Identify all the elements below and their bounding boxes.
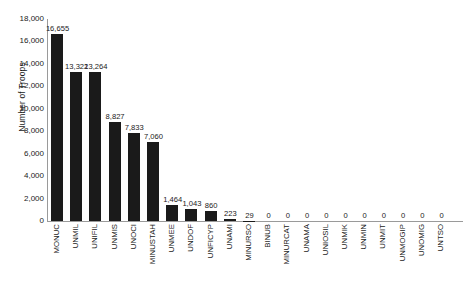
x-axis-label-slot: MONUC xyxy=(47,222,66,285)
bar-slot: 0 xyxy=(317,19,336,221)
bar-slot: 0 xyxy=(413,19,432,221)
bar-value-label: 0 xyxy=(343,212,347,220)
y-axis-tick: 12,000 xyxy=(8,82,44,90)
bar-value-label: 0 xyxy=(420,212,424,220)
x-axis-category-label: BINUB xyxy=(263,224,272,248)
bar-slot: 0 xyxy=(298,19,317,221)
y-axis-tick: 8,000 xyxy=(8,127,44,135)
bar-value-label: 8,827 xyxy=(106,113,125,121)
x-axis-label-slot: MINURCAT xyxy=(277,222,296,285)
x-axis-category-label: UNMOGIP xyxy=(398,224,407,261)
bar xyxy=(205,211,217,221)
bar-slot: 1,043 xyxy=(182,19,201,221)
x-axis-category-label: UNAMA xyxy=(302,224,311,252)
bar-value-label: 29 xyxy=(245,212,253,220)
x-axis-category-labels: MONUCUNMILUNIFILUNMISUNOCIMINUSTAHUNMEEU… xyxy=(47,222,462,285)
bar-value-label: 223 xyxy=(224,210,237,218)
bar xyxy=(109,122,121,221)
bar xyxy=(166,205,178,221)
bar-slot: 223 xyxy=(221,19,240,221)
x-axis-label-slot: UNMIL xyxy=(66,222,85,285)
x-axis-category-label: UNIFIL xyxy=(90,224,99,249)
x-axis-label-slot: UNIFIL xyxy=(85,222,104,285)
bar-slot: 8,827 xyxy=(106,19,125,221)
x-axis-label-slot: BINUB xyxy=(258,222,277,285)
bar-slot: 0 xyxy=(394,19,413,221)
bar-slot: 0 xyxy=(355,19,374,221)
x-axis-label-slot: MINUSTAH xyxy=(143,222,162,285)
bar-slot: 0 xyxy=(336,19,355,221)
x-axis-category-label: MINURSO xyxy=(244,224,253,261)
bar-slot: 0 xyxy=(259,19,278,221)
x-axis-label-slot: UNMIN xyxy=(354,222,373,285)
y-axis-tick: 16,000 xyxy=(8,37,44,45)
x-axis-label-slot: UNOMIG xyxy=(412,222,431,285)
x-axis-category-label: UNMIT xyxy=(378,224,387,249)
bar-slot: 7,833 xyxy=(125,19,144,221)
x-axis-label-slot: UNMEE xyxy=(162,222,181,285)
y-axis-tick-labels: 18,00016,00014,00012,00010,0008,0006,000… xyxy=(8,0,44,285)
bar xyxy=(89,72,101,221)
x-axis-category-label: MINUSTAH xyxy=(148,224,157,264)
bar-value-label: 0 xyxy=(401,212,405,220)
y-axis-tick: 18,000 xyxy=(8,15,44,23)
bar-slot: 860 xyxy=(202,19,221,221)
x-axis-category-label: UNDOF xyxy=(186,224,195,252)
bar-value-label: 0 xyxy=(324,212,328,220)
x-axis-label-slot: UNOCI xyxy=(124,222,143,285)
bar-slot: 13,322 xyxy=(67,19,86,221)
x-axis-category-label: UNAMI xyxy=(225,224,234,249)
bar-value-label: 7,833 xyxy=(125,124,144,132)
x-axis-category-label: UNIOSIL xyxy=(321,224,330,255)
x-axis-category-label: UNMIK xyxy=(340,224,349,249)
x-axis-category-label: UNMIL xyxy=(71,224,80,248)
x-axis-label-slot: UNFICYP xyxy=(201,222,220,285)
bar-slot: 16,655 xyxy=(48,19,67,221)
x-axis-label-slot: UNMOGIP xyxy=(393,222,412,285)
bar xyxy=(128,133,140,221)
x-axis-category-label: UNOMIG xyxy=(417,224,426,256)
x-axis-label-slot: UNMIT xyxy=(373,222,392,285)
bar-slot: 0 xyxy=(374,19,393,221)
x-axis-label-slot: MINURSO xyxy=(239,222,258,285)
x-axis-category-label: UNMIN xyxy=(359,224,368,250)
bar-slot: 0 xyxy=(278,19,297,221)
bar-slot: 13,264 xyxy=(86,19,105,221)
x-axis-category-label: UNMEE xyxy=(167,224,176,252)
bar-value-label: 0 xyxy=(382,212,386,220)
x-axis-label-slot: UNDOF xyxy=(181,222,200,285)
bar-value-label: 13,264 xyxy=(84,63,107,71)
bar-slot: 29 xyxy=(240,19,259,221)
bar xyxy=(51,34,63,221)
bar-slot: 7,060 xyxy=(144,19,163,221)
y-axis-tick: 0 xyxy=(8,217,44,225)
bar-value-label: 0 xyxy=(286,212,290,220)
x-axis-category-label: UNFICYP xyxy=(206,224,215,258)
bar xyxy=(70,72,82,222)
bar-value-label: 860 xyxy=(205,202,218,210)
x-axis-label-slot: UNAMA xyxy=(297,222,316,285)
plot-area: 16,65513,32213,2648,8277,8337,0601,4641,… xyxy=(47,19,463,222)
bar xyxy=(224,219,236,222)
bar-value-label: 0 xyxy=(439,212,443,220)
x-axis-label-slot: UNIOSIL xyxy=(316,222,335,285)
x-axis-category-label: MINURCAT xyxy=(282,224,291,265)
bar-value-label: 0 xyxy=(267,212,271,220)
y-axis-tick: 2,000 xyxy=(8,195,44,203)
bar-value-label: 0 xyxy=(305,212,309,220)
bar-value-label: 7,060 xyxy=(144,133,163,141)
bar-value-label: 0 xyxy=(363,212,367,220)
bar xyxy=(147,142,159,221)
x-axis-category-label: UNTSO xyxy=(436,224,445,251)
bar xyxy=(185,209,197,221)
y-axis-tick: 6,000 xyxy=(8,150,44,158)
bar-slot: 0 xyxy=(432,19,451,221)
bar-value-label: 1,043 xyxy=(182,200,201,208)
y-axis-tick: 14,000 xyxy=(8,60,44,68)
x-axis-category-label: MONUC xyxy=(52,224,61,253)
x-axis-label-slot: UNTSO xyxy=(431,222,450,285)
x-axis-category-label: UNMIS xyxy=(110,224,119,249)
x-axis-category-label: UNOCI xyxy=(129,224,138,249)
bar-value-label: 1,464 xyxy=(163,196,182,204)
bar-value-label: 16,655 xyxy=(46,25,69,33)
